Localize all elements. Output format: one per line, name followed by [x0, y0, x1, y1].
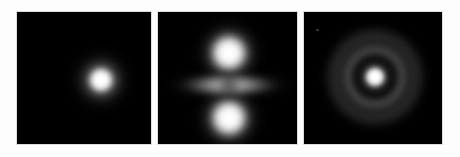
panel-1-grain-overlay: [17, 12, 151, 144]
panel-2-canvas: [158, 12, 297, 144]
panel-3-middle-ring: [338, 40, 412, 114]
panel-3-grain-overlay: [304, 12, 442, 144]
panel-3-canvas: [304, 12, 442, 144]
panel-3-upper-left-speck: [316, 29, 319, 31]
panel-3-core-halo: [355, 57, 395, 97]
orbital-panel-2[interactable]: [157, 11, 298, 145]
orbital-panel-1[interactable]: [16, 11, 152, 145]
panel-3-inner-dark-node: [353, 55, 397, 99]
figure-root: [0, 0, 460, 157]
orbital-panel-3[interactable]: [303, 11, 443, 145]
panel-1-blob-halo: [64, 43, 138, 117]
panel-3-core: [365, 67, 385, 87]
panel-1-blob-core: [88, 67, 114, 93]
panel-1-canvas: [17, 12, 151, 144]
panel-3-outer-ring: [319, 21, 431, 133]
